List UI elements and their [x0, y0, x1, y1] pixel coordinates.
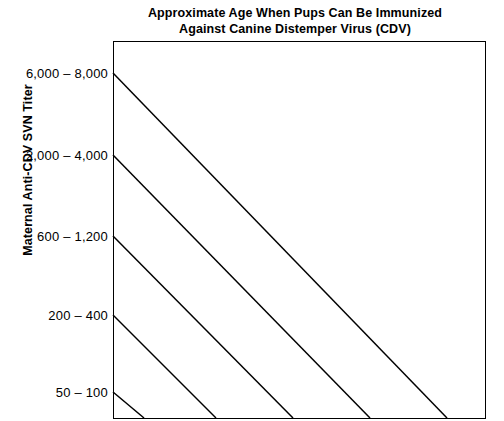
data-line-2 — [113, 236, 293, 418]
data-line-4 — [113, 392, 144, 418]
data-line-3 — [113, 315, 216, 418]
data-line-1 — [113, 155, 370, 418]
data-line-0 — [113, 73, 447, 418]
data-line-group — [113, 73, 447, 418]
chart-container: Approximate Age When Pups Can Be Immuniz… — [0, 0, 504, 421]
plot-area — [0, 0, 504, 421]
